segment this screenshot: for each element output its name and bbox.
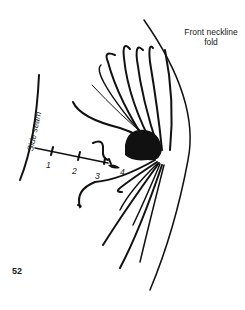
neckline-shadow — [125, 130, 162, 161]
side-seam-line — [20, 75, 39, 180]
drape-fold-illustration — [0, 0, 245, 310]
measurement-line — [35, 148, 108, 163]
